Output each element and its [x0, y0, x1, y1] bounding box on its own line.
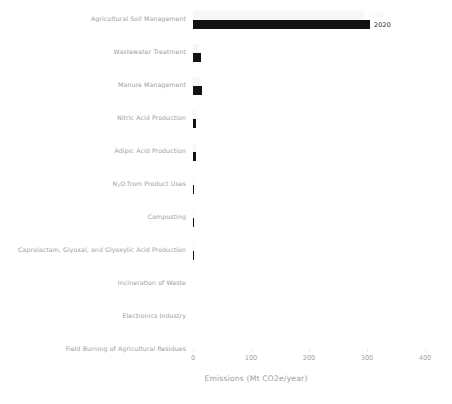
- x-tick: [367, 348, 368, 352]
- x-tick-label: 100: [245, 355, 258, 362]
- emissions-bar-chart: Agricultural Soil Management 1990 2020 W…: [0, 0, 452, 404]
- bar-previous-year: [193, 77, 200, 86]
- category-label: Incineration of Waste: [0, 280, 186, 286]
- bar-previous-year: [193, 11, 364, 20]
- bar-current-year: [193, 86, 202, 95]
- bar-current-year: [193, 119, 196, 128]
- bar-previous-year: [193, 44, 199, 53]
- category-label: Field Burning of Agricultural Residues: [0, 346, 186, 352]
- x-tick-label: 200: [303, 355, 316, 362]
- bar-previous-year: [193, 110, 196, 119]
- category-label: Manure Management: [0, 82, 186, 88]
- category-label: Agricultural Soil Management: [0, 16, 186, 22]
- bar-current-year: [193, 20, 370, 29]
- x-tick-label: 400: [419, 355, 432, 362]
- category-label: Adipic Acid Production: [0, 148, 186, 154]
- bar-current-year: [193, 53, 201, 62]
- category-label-text: N2O from Product Uses: [113, 180, 186, 187]
- x-tick: [193, 348, 194, 352]
- bar-current-year: [193, 218, 194, 227]
- x-tick: [425, 348, 426, 352]
- category-label: Nitric Acid Production: [0, 115, 186, 121]
- series-label-current: 2020: [374, 22, 391, 28]
- x-axis: 0 100 200 300 400: [193, 348, 425, 349]
- category-label: Caprolactam, Glyoxal, and Glyoxylic Acid…: [0, 247, 186, 253]
- category-label: Composting: [0, 214, 186, 220]
- x-axis-title-text: Emissions (Mt CO2e/year): [204, 374, 307, 383]
- bar-current-year: [193, 185, 194, 194]
- x-axis-title: Emissions (Mt CO2e/year): [0, 374, 452, 383]
- category-label: Electronics Industry: [0, 313, 186, 319]
- x-tick: [251, 348, 252, 352]
- series-label-previous: 1990: [367, 12, 384, 18]
- x-tick-label: 0: [191, 355, 195, 362]
- category-label: Wastewater Treatment: [0, 49, 186, 55]
- category-label: N2O from Product Uses: [0, 181, 186, 187]
- bar-previous-year: [193, 176, 194, 185]
- plot-area: Agricultural Soil Management 1990 2020 W…: [193, 8, 425, 348]
- x-tick-label: 300: [361, 355, 374, 362]
- x-tick: [309, 348, 310, 352]
- bar-current-year: [193, 152, 196, 161]
- bar-previous-year: [193, 143, 196, 152]
